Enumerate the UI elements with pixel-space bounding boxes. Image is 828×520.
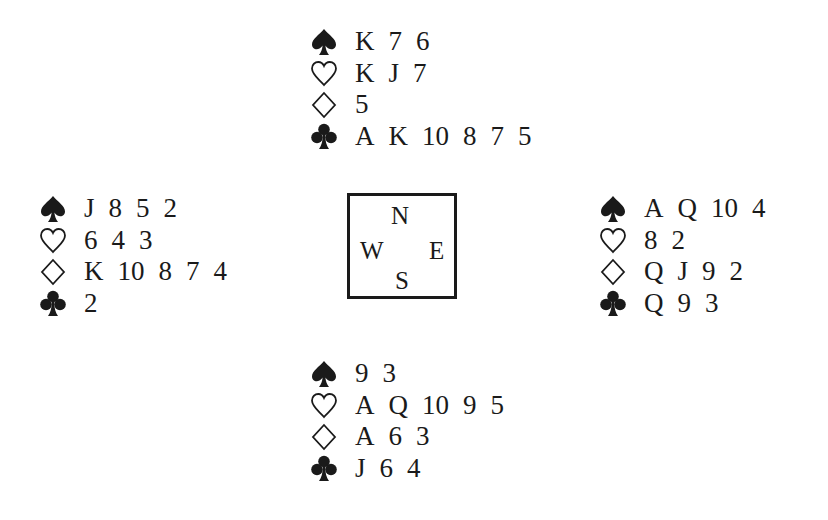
card-rank: 4 [752,193,766,225]
card-rank: K [355,26,375,58]
west-spades-cards: J852 [84,193,191,225]
west-diamonds-cards: K10874 [84,256,241,288]
club-icon [596,289,630,317]
club-icon [307,454,341,482]
card-rank: 6 [84,225,98,257]
north-clubs-row: AK10875 [307,121,546,153]
east-clubs-cards: Q93 [644,288,733,320]
east-hearts-cards: 82 [644,225,699,257]
card-rank: 4 [407,453,421,485]
card-rank: A [355,390,375,422]
card-rank: 2 [730,256,744,288]
card-rank: 7 [186,256,200,288]
card-rank: A [644,193,664,225]
north-hearts-row: KJ7 [307,58,546,90]
north-clubs-cards: AK10875 [355,121,546,153]
card-rank: Q [644,256,664,288]
east-hand: AQ10482QJ92Q93 [596,193,780,319]
west-clubs-row: 2 [36,288,241,320]
card-rank: 5 [355,89,369,121]
card-rank: 2 [672,225,686,257]
card-rank: 10 [711,193,738,225]
club-icon [36,289,70,317]
south-hearts-cards: AQ1095 [355,390,518,422]
south-clubs-cards: J64 [355,453,435,485]
card-rank: 10 [118,256,145,288]
spade-icon [596,195,630,223]
west-hearts-row: 643 [36,225,241,257]
south-clubs-row: J64 [307,453,518,485]
east-diamonds-cards: QJ92 [644,256,757,288]
card-rank: 9 [702,256,716,288]
card-rank: 5 [136,193,150,225]
card-rank: 10 [422,390,449,422]
card-rank: 3 [705,288,719,320]
heart-icon [307,59,341,87]
spade-icon [307,360,341,388]
diamond-icon [307,423,341,451]
card-rank: 6 [380,453,394,485]
south-diamonds-row: A63 [307,421,518,453]
south-spades-row: 93 [307,358,518,390]
card-rank: J [84,193,95,225]
south-spades-cards: 93 [355,358,410,390]
compass-box: N W E S [347,193,457,299]
card-rank: Q [644,288,664,320]
card-rank: 7 [413,58,427,90]
north-diamonds-cards: 5 [355,89,383,121]
heart-icon [36,226,70,254]
compass-south-label: S [395,268,409,293]
card-rank: 5 [491,390,505,422]
heart-icon [596,226,630,254]
south-hearts-row: AQ1095 [307,390,518,422]
card-rank: K [84,256,104,288]
compass-east-label: E [429,238,444,263]
spade-icon [307,28,341,56]
north-spades-row: K76 [307,26,546,58]
west-spades-row: J852 [36,193,241,225]
card-rank: J [678,256,689,288]
card-rank: K [389,121,409,153]
card-rank: 2 [164,193,178,225]
card-rank: 8 [463,121,477,153]
card-rank: 7 [389,26,403,58]
card-rank: 10 [422,121,449,153]
west-diamonds-row: K10874 [36,256,241,288]
north-spades-cards: K76 [355,26,444,58]
south-hand: 93AQ1095A63J64 [307,358,518,484]
east-hearts-row: 82 [596,225,780,257]
card-rank: 6 [389,421,403,453]
card-rank: A [355,421,375,453]
spade-icon [36,195,70,223]
card-rank: 4 [112,225,126,257]
card-rank: J [389,58,400,90]
compass-west-label: W [360,238,384,263]
east-diamonds-row: QJ92 [596,256,780,288]
card-rank: 3 [416,421,430,453]
east-clubs-row: Q93 [596,288,780,320]
west-clubs-cards: 2 [84,288,112,320]
diamond-icon [307,91,341,119]
card-rank: 9 [355,358,369,390]
diamond-icon [36,258,70,286]
card-rank: 4 [214,256,228,288]
card-rank: 8 [159,256,173,288]
card-rank: K [355,58,375,90]
card-rank: 7 [491,121,505,153]
card-rank: 3 [383,358,397,390]
card-rank: A [355,121,375,153]
card-rank: Q [678,193,698,225]
card-rank: 9 [678,288,692,320]
card-rank: 3 [139,225,153,257]
north-hand: K76KJ75AK10875 [307,26,546,152]
club-icon [307,122,341,150]
compass-north-label: N [391,203,409,228]
south-diamonds-cards: A63 [355,421,444,453]
diamond-icon [596,258,630,286]
card-rank: 2 [84,288,98,320]
card-rank: 5 [518,121,532,153]
card-rank: 6 [416,26,430,58]
card-rank: Q [389,390,409,422]
west-hand: J852643K108742 [36,193,241,319]
card-rank: 8 [644,225,658,257]
